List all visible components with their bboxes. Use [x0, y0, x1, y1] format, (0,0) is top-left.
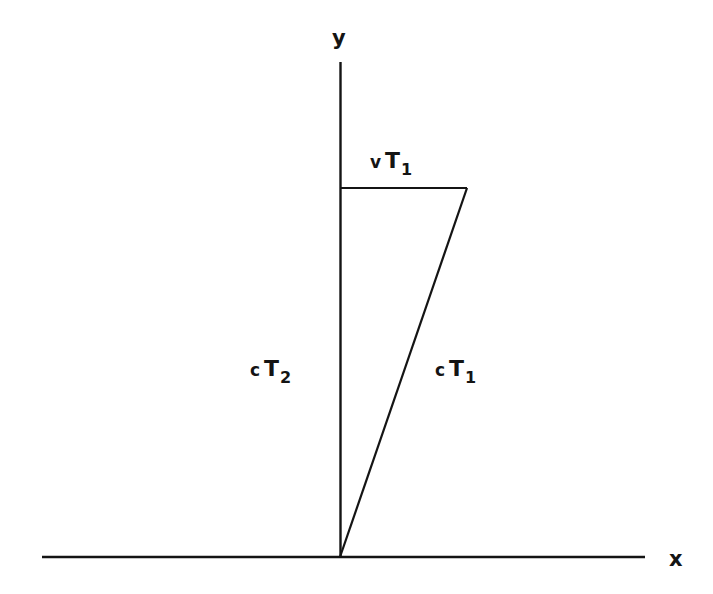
period-symbol-1: T: [449, 356, 464, 381]
period-subscript-1: 1: [465, 368, 476, 387]
segment-label-v-t1: vT1: [370, 150, 411, 172]
x-axis-label: x: [669, 549, 683, 570]
lightspeed-symbol-2: c: [250, 360, 260, 380]
period-subscript-v: 1: [401, 160, 412, 179]
segment-label-c-t2: cT2: [250, 358, 290, 380]
diagram-svg: [0, 0, 713, 594]
lightspeed-symbol-1: c: [435, 360, 445, 380]
period-symbol-2: T: [264, 356, 279, 381]
velocity-symbol: v: [370, 152, 381, 172]
period-symbol-v: T: [385, 148, 400, 173]
diagram-canvas: y x vT1 cT2 cT1: [0, 0, 713, 594]
period-subscript-2: 2: [280, 368, 291, 387]
segment-label-c-t1: cT1: [435, 358, 475, 380]
y-axis-label: y: [332, 28, 346, 49]
